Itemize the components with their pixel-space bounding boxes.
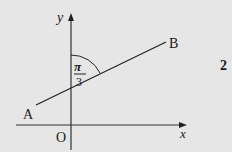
x-axis-label: x [179,126,186,141]
angle-numerator: π [74,59,82,74]
coordinate-diagram: y x O A B π 3 2 [0,0,232,152]
origin-label: O [56,130,66,145]
y-axis-label: y [55,10,64,25]
y-axis-arrow-icon [68,13,74,21]
point-a-label: A [23,107,34,122]
angle-denominator: 3 [76,75,82,89]
point-b-label: B [169,36,178,51]
line-ab [36,42,166,105]
problem-number: 2 [220,58,227,73]
